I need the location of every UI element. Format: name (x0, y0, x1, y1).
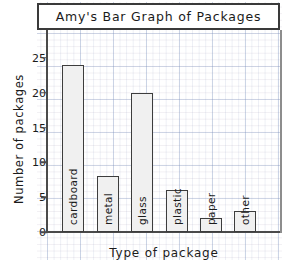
bar-label-paper: paper (205, 192, 217, 225)
bar-metal: metal (97, 176, 119, 232)
bar-label-metal: metal (102, 193, 114, 225)
chart-title-box: Amy's Bar Graph of Packages (37, 3, 280, 30)
plot-area: cardboardmetalglassplasticpaperother (46, 30, 282, 232)
chart-title: Amy's Bar Graph of Packages (39, 5, 278, 28)
bar-label-cardboard: cardboard (67, 168, 79, 225)
bar-other: other (234, 211, 256, 232)
bar-label-glass: glass (136, 196, 148, 225)
x-axis-title: Type of package (46, 246, 282, 260)
bar-cardboard: cardboard (62, 65, 84, 232)
bar-paper: paper (200, 218, 222, 232)
bar-chart-figure: Amy's Bar Graph of Packages Number of pa… (0, 0, 284, 265)
bar-label-other: other (239, 195, 251, 225)
bar-plastic: plastic (166, 190, 188, 232)
bar-label-plastic: plastic (171, 188, 183, 225)
bar-glass: glass (131, 93, 153, 232)
y-axis-ticks: 0510152025 (0, 0, 46, 265)
